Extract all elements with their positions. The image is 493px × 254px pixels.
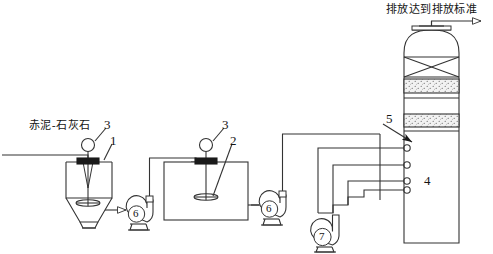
label-agitator-1: 3 — [104, 118, 111, 131]
feed-stream-label: 赤泥-石灰石 — [29, 120, 90, 131]
agitator-1-cap — [77, 158, 99, 164]
label-tank-1: 1 — [110, 134, 117, 147]
pump-6a — [126, 196, 153, 230]
packing-bed-lower — [404, 114, 459, 127]
absorption-tower — [404, 26, 459, 243]
spray-nozzle-1 — [404, 145, 410, 151]
process-flow-diagram: 排放达到排放标准 赤泥-石灰石 3 1 3 2 5 4 6 6 7 — [0, 0, 493, 254]
label-agitator-2: 3 — [222, 118, 229, 131]
pump6b-to-header-pipe — [283, 134, 381, 191]
label-pump-6a: 6 — [133, 208, 139, 219]
label-packing: 5 — [386, 112, 393, 125]
mist-eliminator — [404, 57, 459, 77]
spray-nozzle-2 — [404, 162, 410, 168]
clean-gas-outlet-label: 排放达到排放标准 — [386, 4, 477, 15]
spray-nozzle-4 — [404, 187, 410, 193]
clean-gas-outlet-pipe — [432, 21, 482, 26]
label-pump-7: 7 — [319, 231, 325, 242]
agitator-2-cap — [195, 158, 217, 164]
feed-inlet-pipe — [2, 155, 88, 162]
agitator-1-motor — [82, 139, 95, 152]
agitator-2-motor — [200, 139, 213, 152]
packing-bed-upper — [404, 79, 459, 93]
label-nozzle: 4 — [424, 174, 431, 187]
spray-nozzle-3 — [404, 178, 410, 184]
spray-header-manifold — [318, 134, 404, 213]
label-tank-2: 2 — [230, 134, 237, 147]
label-pump-6b: 6 — [266, 203, 272, 214]
pump-6b — [259, 191, 286, 225]
